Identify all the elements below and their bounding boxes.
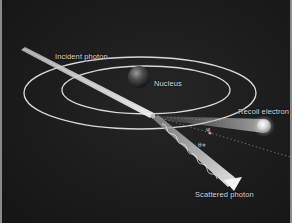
recoil-electron-sphere [257,119,271,133]
recoil-electron-label: Recoil electron [238,107,289,116]
collision-point [151,114,156,119]
electron-angle-symbol: φ [206,125,210,132]
nucleus-label: Nucleus [154,79,182,88]
scattered-photon-label: Scattered photon [195,190,254,199]
incident-photon-label: Incident photon [55,52,108,61]
photon-angle-symbol: θ [198,141,202,148]
compton-scattering-diagram: Incident photon Nucleus Recoil electron … [0,0,292,223]
nucleus-sphere [128,66,150,88]
